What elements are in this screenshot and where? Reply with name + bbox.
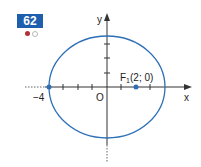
x-axis-label: x	[184, 92, 189, 103]
left-vertex-point	[47, 85, 52, 90]
focus-label-coords: (2; 0)	[130, 72, 153, 83]
origin-label: O	[96, 92, 104, 103]
left-vertex-label: −4	[33, 92, 45, 103]
focus-label: F1(2; 0)	[120, 72, 153, 84]
y-axis-arrow-icon	[104, 13, 110, 21]
ellipse-diagram: y x O −4 F1(2; 0)	[0, 0, 201, 167]
y-axis-label: y	[97, 14, 102, 25]
focus-point	[134, 85, 139, 90]
x-axis-arrow-icon	[184, 84, 192, 90]
